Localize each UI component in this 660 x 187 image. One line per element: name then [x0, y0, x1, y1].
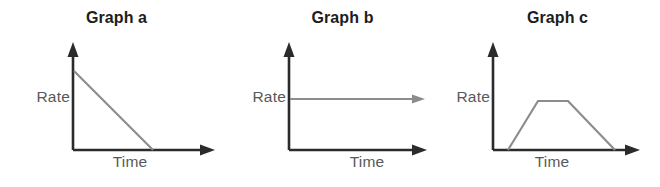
graph-b-time-label: Time [327, 153, 407, 171]
figure-container: Graph a Rate Time Graph b [0, 0, 660, 187]
graph-a-curve [74, 71, 153, 150]
graph-panel-b: Graph b Rate Time [220, 0, 440, 187]
graph-c-rate-label: Rate [440, 88, 490, 106]
graph-a-time-label: Time [90, 153, 170, 171]
graph-panel-c: Graph c Rate Time [440, 0, 660, 187]
graph-panel-a: Graph a Rate Time [0, 0, 220, 187]
graph-c-time-label: Time [512, 153, 592, 171]
graph-b-rate-label: Rate [226, 88, 286, 106]
graph-c-curve [508, 101, 615, 150]
graph-a-rate-label: Rate [10, 88, 70, 106]
graph-b-curve [290, 95, 425, 104]
